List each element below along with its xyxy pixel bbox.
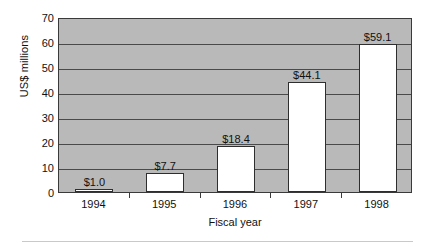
y-axis-tick-label: 40: [32, 88, 54, 98]
x-axis-tick-mark: [129, 193, 130, 198]
y-axis-tick-label: 60: [32, 38, 54, 48]
bar: [75, 189, 113, 192]
y-axis-tick-label: 30: [32, 113, 54, 123]
x-axis-tick-label: 1994: [63, 198, 123, 211]
bar: [359, 44, 397, 192]
y-axis-tick-label: 50: [32, 63, 54, 73]
x-axis-tick-label: 1998: [347, 198, 407, 211]
y-axis-title: US$ millions: [18, 6, 30, 126]
x-axis-tick-label: 1997: [276, 198, 336, 211]
x-axis-tick-mark: [200, 193, 201, 198]
y-axis-tick-label: 0: [32, 188, 54, 198]
bar: [217, 146, 255, 192]
bottom-rule-divider: [22, 241, 413, 242]
bar-value-label: $44.1: [277, 69, 337, 81]
bar-value-label: $7.7: [135, 160, 195, 172]
plot-area: $1.0$7.7$18.4$44.1$59.1: [58, 18, 412, 193]
y-axis-tick-label: 10: [32, 163, 54, 173]
x-axis-tick-mark: [270, 193, 271, 198]
bar-value-label: $59.1: [348, 31, 408, 43]
y-axis-tick-labels: 010203040506070: [30, 0, 54, 250]
x-axis-tick-mark: [341, 193, 342, 198]
bar-chart-figure: US$ millions 010203040506070 $1.0$7.7$18…: [0, 0, 435, 250]
x-axis-title: Fiscal year: [58, 216, 412, 228]
bar-value-label: $18.4: [206, 133, 266, 145]
x-axis-tick-label: 1995: [134, 198, 194, 211]
y-axis-tick-label: 70: [32, 13, 54, 23]
bar: [288, 82, 326, 192]
y-axis-tick-label: 20: [32, 138, 54, 148]
bar: [146, 173, 184, 192]
bar-value-label: $1.0: [64, 176, 124, 188]
bars-layer: $1.0$7.7$18.4$44.1$59.1: [59, 19, 411, 192]
x-axis-tick-label: 1996: [205, 198, 265, 211]
